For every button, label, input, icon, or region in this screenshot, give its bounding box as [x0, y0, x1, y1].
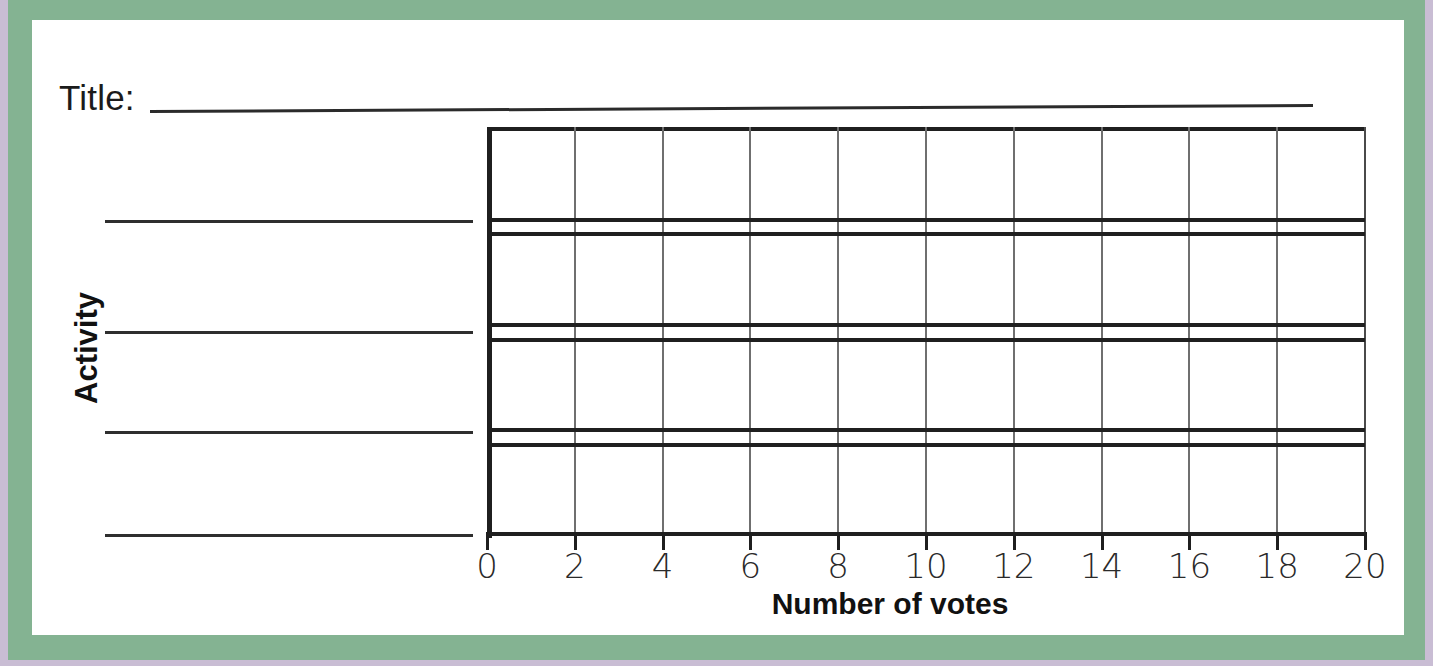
- category-write-in-line-3[interactable]: [105, 431, 473, 434]
- y-axis-title: Activity: [69, 258, 105, 438]
- bar-track-1-top: [487, 218, 1365, 222]
- bar-track-2-bottom: [487, 338, 1365, 342]
- x-tick-label-20: 20: [1335, 546, 1395, 586]
- bar-track-3-bottom: [487, 443, 1365, 447]
- x-tick-label-12: 12: [984, 546, 1044, 586]
- bar-track-1-bottom: [487, 232, 1365, 236]
- gridline-20: [1364, 127, 1366, 534]
- x-tick-label-14: 14: [1072, 546, 1132, 586]
- x-tick-label-8: 8: [808, 546, 868, 586]
- gridline-12: [1013, 127, 1015, 534]
- category-write-in-line-1[interactable]: [105, 220, 473, 223]
- x-tick-label-0: 0: [457, 546, 517, 586]
- x-tick-label-6: 6: [720, 546, 780, 586]
- bar-graph-plot-area[interactable]: [487, 127, 1365, 534]
- x-tick-label-18: 18: [1247, 546, 1307, 586]
- gridline-10: [925, 127, 927, 534]
- x-tick-label-2: 2: [545, 546, 605, 586]
- gridline-8: [837, 127, 839, 534]
- category-write-in-line-4[interactable]: [105, 534, 473, 537]
- category-write-in-line-2[interactable]: [105, 331, 473, 334]
- gridline-6: [749, 127, 751, 534]
- title-label: Title:: [59, 78, 135, 118]
- x-tick-label-4: 4: [633, 546, 693, 586]
- gridline-16: [1188, 127, 1190, 534]
- bar-track-3-top: [487, 428, 1365, 432]
- bar-track-2-top: [487, 323, 1365, 327]
- x-tick-label-10: 10: [896, 546, 956, 586]
- gridline-4: [662, 127, 664, 534]
- x-axis-title: Number of votes: [590, 587, 1190, 621]
- y-axis-line: [487, 127, 492, 538]
- gridline-18: [1276, 127, 1278, 534]
- gridline-2: [574, 127, 576, 534]
- gridline-14: [1101, 127, 1103, 534]
- x-tick-label-16: 16: [1159, 546, 1219, 586]
